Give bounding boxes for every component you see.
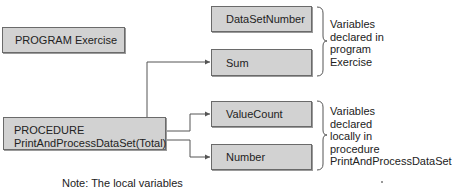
arrow-to-number [166, 140, 210, 157]
annotation-line: Variables [330, 105, 452, 118]
program-box: PROGRAM Exercise [2, 27, 125, 53]
arrow-to-valuecount [166, 114, 210, 131]
variable-box-datasetnumber: DataSetNumber [211, 6, 312, 32]
variable-label: Number [212, 151, 311, 163]
variable-box-sum: Sum [211, 49, 312, 76]
local-scope-annotation: Variables declared locally in procedure … [330, 105, 452, 168]
variable-label: Sum [212, 57, 311, 69]
stray-dot [381, 181, 383, 183]
variable-label: ValueCount [212, 108, 311, 120]
procedure-label: PROCEDURE PrintAndProcessDataSet(Total) [4, 124, 165, 150]
annotation-line: PrintAndProcessDataSet [330, 155, 452, 168]
annotation-line: declared in [330, 31, 384, 44]
program-label: PROGRAM Exercise [3, 34, 124, 46]
annotation-line: Variables [330, 18, 384, 31]
annotation-line: program [330, 43, 384, 56]
brace-program-icon [317, 7, 327, 76]
footnote: Note: The local variables [62, 177, 183, 190]
annotation-line: Exercise [330, 56, 384, 69]
procedure-keyword: PROCEDURE [14, 124, 84, 136]
arrow-to-sum [147, 62, 210, 117]
program-scope-annotation: Variables declared in program Exercise [330, 18, 384, 68]
procedure-signature: PrintAndProcessDataSet(Total) [14, 137, 166, 149]
brace-local-icon [317, 101, 327, 170]
annotation-line: declared [330, 118, 452, 131]
procedure-box: PROCEDURE PrintAndProcessDataSet(Total) [3, 117, 166, 150]
annotation-line: procedure [330, 143, 452, 156]
variable-box-valuecount: ValueCount [211, 101, 312, 127]
variable-label: DataSetNumber [212, 13, 311, 25]
annotation-line: locally in [330, 130, 452, 143]
variable-box-number: Number [211, 144, 312, 170]
